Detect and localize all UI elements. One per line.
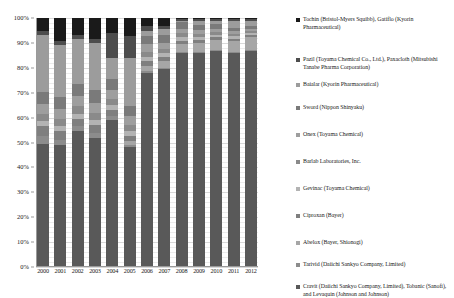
legend-item[interactable]: Gevinac (Toyama Chemical)	[296, 185, 452, 193]
legend-item[interactable]: Pazil (Toyama Chemical Co., Ltd.), Paxac…	[296, 56, 452, 71]
y-axis-tick-mark	[31, 142, 34, 143]
bar-segment	[89, 43, 101, 90]
bar-segment	[54, 45, 66, 96]
bar-column	[37, 18, 49, 267]
bar-segment	[158, 35, 170, 42]
plot-area	[36, 18, 258, 267]
legend-swatch-icon	[296, 241, 300, 245]
y-axis-tick-label: 20%	[17, 214, 29, 221]
legend-item-label: Cravit (Daiichi Sankyo Company, Limited)…	[303, 283, 452, 298]
bar-column	[54, 18, 66, 267]
legend-swatch-icon	[296, 133, 300, 137]
y-axis-tick-label: 90%	[17, 40, 29, 47]
bar-segment	[72, 39, 84, 84]
bar-segment	[158, 69, 170, 267]
bar-segment	[72, 119, 84, 126]
bar-segment	[228, 53, 240, 267]
legend-item[interactable]: Ciproxan (Bayer)	[296, 212, 452, 220]
x-axis: 2000200120022003200420052006200720082009…	[36, 268, 258, 282]
bar-segment	[37, 136, 49, 143]
bar-column	[210, 18, 222, 267]
y-axis-tick-mark	[31, 242, 34, 243]
legend-item-label: Sword (Nippon Shinyaku)	[303, 104, 364, 112]
bars-layer	[36, 18, 258, 267]
bar-segment	[124, 147, 136, 267]
bar-segment	[124, 36, 136, 58]
x-axis-tick-label: 2011	[228, 268, 240, 282]
bar-segment	[54, 145, 66, 267]
bar-segment	[72, 84, 84, 96]
legend-item-label: Baialar (Kyorin Pharmaceutical)	[303, 81, 378, 89]
bar-segment	[72, 106, 84, 113]
bar-segment	[54, 109, 66, 119]
bar-segment	[106, 79, 118, 90]
y-axis-tick-label: 0%	[20, 264, 29, 271]
bar-segment	[106, 18, 118, 33]
bar-column	[193, 18, 205, 267]
legend-item[interactable]: Cravit (Daiichi Sankyo Company, Limited)…	[296, 283, 452, 298]
bar-segment	[54, 119, 66, 126]
legend-swatch-icon	[296, 83, 300, 87]
legend-item-label: Pazil (Toyama Chemical Co., Ltd.), Paxac…	[303, 56, 452, 71]
bar-segment	[245, 37, 257, 50]
legend-item[interactable]: Tarivid (Daiichi Sankyo Company, Limited…	[296, 261, 452, 269]
bar-segment	[54, 131, 66, 140]
legend-item-label: Gevinac (Toyama Chemical)	[303, 185, 370, 193]
x-axis-tick-label: 2007	[158, 268, 170, 282]
bar-segment	[193, 43, 205, 52]
bar-segment	[89, 138, 101, 267]
y-axis-tick-mark	[31, 67, 34, 68]
bar-segment	[210, 40, 222, 50]
legend-item[interactable]: Abelox (Bayer, Shionogi)	[296, 239, 452, 247]
bar-segment	[210, 51, 222, 267]
bar-segment	[72, 96, 84, 106]
legend-item[interactable]: Baialar (Kyorin Pharmaceutical)	[296, 81, 452, 89]
bar-segment	[37, 18, 49, 30]
bar-segment	[106, 58, 118, 79]
legend-item[interactable]: Sword (Nippon Shinyaku)	[296, 104, 452, 112]
chart-legend: Tochin (Bristol-Myers Squibb), Gatiflo (…	[296, 13, 452, 285]
legend-item[interactable]: Barlab Laboratories, Inc.	[296, 158, 452, 166]
legend-swatch-icon	[296, 160, 300, 164]
legend-item[interactable]: Tochin (Bristol-Myers Squibb), Gatiflo (…	[296, 16, 452, 31]
legend-item-label: Ciproxan (Bayer)	[303, 212, 344, 220]
bar-segment	[106, 33, 118, 58]
bar-column	[72, 18, 84, 267]
legend-item-label: Tarivid (Daiichi Sankyo Company, Limited…	[303, 261, 405, 269]
legend-swatch-icon	[296, 18, 300, 22]
legend-swatch-icon	[296, 285, 300, 289]
bar-segment	[141, 36, 153, 45]
bar-segment	[141, 73, 153, 267]
bar-segment	[37, 92, 49, 104]
bar-segment	[54, 18, 66, 40]
legend-item[interactable]: Onex (Toyama Chemical)	[296, 131, 452, 139]
y-axis-tick-mark	[31, 42, 34, 43]
y-axis-tick-label: 80%	[17, 65, 29, 72]
x-axis-tick-label: 2002	[72, 268, 84, 282]
x-axis-tick-label: 2012	[245, 268, 257, 282]
y-axis-tick-mark	[31, 18, 34, 19]
x-axis-tick-label: 2006	[141, 268, 153, 282]
bar-segment	[124, 18, 136, 35]
bar-column	[245, 18, 257, 267]
y-axis-tick-label: 50%	[17, 139, 29, 146]
bar-column	[158, 18, 170, 267]
y-axis-tick-label: 40%	[17, 164, 29, 171]
bar-column	[228, 18, 240, 267]
bar-segment	[72, 131, 84, 267]
bar-segment	[89, 18, 101, 39]
legend-item-label: Tochin (Bristol-Myers Squibb), Gatiflo (…	[303, 16, 452, 31]
legend-item-label: Barlab Laboratories, Inc.	[303, 158, 361, 166]
bar-segment	[37, 126, 49, 136]
bar-segment	[124, 116, 136, 125]
bar-segment	[106, 120, 118, 267]
bar-segment	[245, 51, 257, 267]
bar-segment	[37, 35, 49, 91]
legend-swatch-icon	[296, 214, 300, 218]
bar-segment	[141, 44, 153, 51]
y-axis-tick-mark	[31, 217, 34, 218]
bar-column	[141, 18, 153, 267]
bar-segment	[176, 44, 188, 51]
bar-segment	[37, 144, 49, 267]
